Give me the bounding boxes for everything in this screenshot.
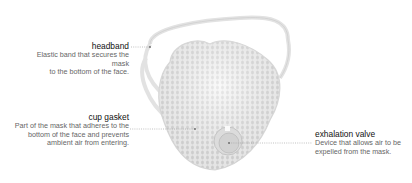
exhalation-valve-part — [214, 126, 242, 155]
exhalation-valve-description-line: expelled from the mask. — [315, 147, 391, 156]
headband-label: headband Elastic band that secures the m… — [28, 41, 129, 77]
cup-gasket-label: cup gasket Part of the mask that adheres… — [10, 112, 129, 148]
headband-description-line: to the bottom of the face. — [49, 67, 129, 76]
cup-gasket-description-line: ambient air from entering. — [47, 138, 129, 147]
headband-description-line: Elastic band that secures the mask — [37, 50, 129, 68]
exhalation-valve-label: exhalation valve Device that allows air … — [315, 129, 411, 156]
